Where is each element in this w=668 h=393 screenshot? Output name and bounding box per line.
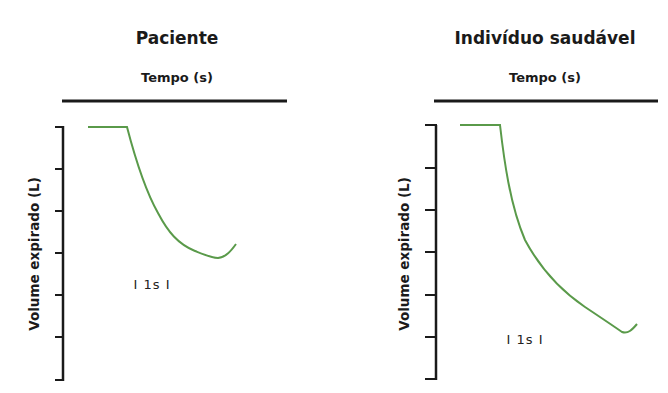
left-curve <box>88 127 236 258</box>
charts-canvas <box>0 0 668 393</box>
right-curve <box>460 125 637 333</box>
left-chart <box>55 101 287 381</box>
right-chart <box>425 101 658 380</box>
